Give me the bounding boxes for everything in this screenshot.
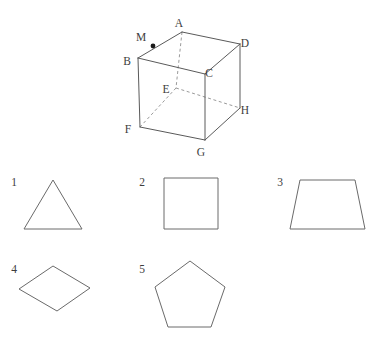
option-number-2: 2 [139,176,145,188]
option-number-4: 4 [11,263,17,275]
option-shape-2-square[interactable] [164,178,218,229]
option-shape-1-triangle[interactable] [24,180,82,229]
vertex-label-g: G [197,146,205,158]
vertex-label-b: B [123,55,131,67]
cube-hidden-edge-eh [176,88,240,108]
cube-hidden-edge-ef [140,88,176,127]
vertex-label-d: D [241,37,249,49]
cube-edge-bc [138,58,205,74]
cube-edge-ad [182,32,240,44]
vertex-label-h: H [241,104,249,116]
cube-hidden-edge-ae [176,32,182,88]
diagram-canvas: · · · · · · · M ABCDEFGH 12345 [0,0,371,339]
cube-edge-bf [138,58,140,127]
option-shapes-group [19,178,365,327]
vertex-label-e: E [162,83,169,95]
option-shape-3-trapezoid[interactable] [290,180,365,229]
option-number-1: 1 [11,176,17,188]
point-m-dot [151,44,156,49]
option-numbers-group: 12345 [11,176,283,275]
vertex-label-c: C [205,67,213,79]
option-shape-5-pentagon[interactable] [155,261,225,327]
option-number-3: 3 [277,176,283,188]
vertex-label-f: F [125,123,131,135]
vertex-label-a: A [175,17,184,29]
marked-point-m-group: M [136,31,156,49]
geometry-figure-svg: M ABCDEFGH 12345 [0,0,371,339]
option-shape-4-rhombus[interactable] [19,266,90,311]
option-number-5: 5 [139,263,145,275]
cube-edge-fg [140,127,205,140]
clipped-top-text: · · · · · · · [2,0,62,3]
vertex-label-m: M [136,31,146,43]
cube-edge-gh [205,108,240,140]
